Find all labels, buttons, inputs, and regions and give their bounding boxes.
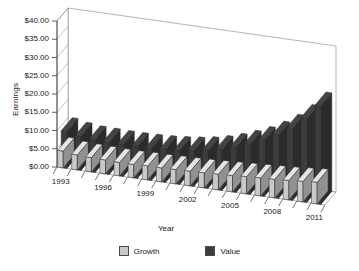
- x-axis-title: Year: [158, 224, 174, 233]
- legend-swatch-value: [205, 246, 215, 256]
- legend-label-value: Value: [220, 247, 240, 256]
- x-axis-tick-label: 2008: [263, 207, 281, 216]
- x-axis-tick-label: 1999: [136, 189, 154, 198]
- x-axis-tick-label: 1996: [94, 183, 112, 192]
- plot-area: [0, 0, 359, 271]
- x-axis-tick-label: 2002: [179, 195, 197, 204]
- legend-item-growth: Growth: [119, 246, 160, 256]
- legend-swatch-growth: [119, 246, 129, 256]
- x-axis-tick-label: 1993: [52, 177, 70, 186]
- chart-legend: Growth Value: [0, 246, 359, 256]
- earnings-3d-bar-chart: Earnings $0.00$5.00$10.00$15.00$20.00$25…: [0, 0, 359, 271]
- legend-item-value: Value: [205, 246, 240, 256]
- legend-label-growth: Growth: [134, 247, 160, 256]
- x-axis-tick-label: 2005: [221, 201, 239, 210]
- x-axis-tick-label: 2011: [306, 213, 323, 222]
